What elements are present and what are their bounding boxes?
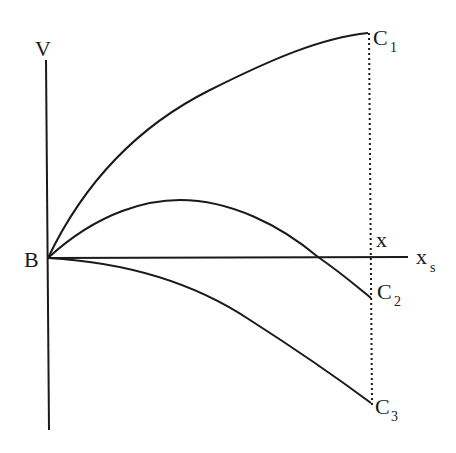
origin-label-b: B xyxy=(24,247,39,272)
x-axis xyxy=(48,257,408,258)
v-axis xyxy=(46,60,49,430)
curve-b-c3 xyxy=(48,258,371,403)
c2-label-sub: 2 xyxy=(394,294,401,309)
curve-b-c2 xyxy=(48,200,371,298)
x-axis-label: x xyxy=(416,244,427,269)
x-marker-label: x xyxy=(376,227,387,252)
curve-b-c1 xyxy=(48,33,368,258)
x-marker-dotted-line xyxy=(369,33,372,405)
c3-label: C xyxy=(375,394,390,419)
v-axis-label: V xyxy=(35,36,51,61)
c1-label: C xyxy=(373,25,388,50)
c3-label-sub: 3 xyxy=(391,409,398,424)
x-axis-label-sub: s xyxy=(430,260,435,275)
trajectory-diagram: V B x x s C 1 C 2 C 3 xyxy=(0,0,456,453)
c2-label: C xyxy=(377,279,392,304)
c1-label-sub: 1 xyxy=(390,40,397,55)
x-axis-label-main: x xyxy=(416,244,427,269)
